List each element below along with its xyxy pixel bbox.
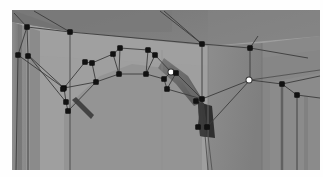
vertex-handle[interactable]: [146, 48, 151, 53]
vertex-handle[interactable]: [200, 97, 205, 102]
vertex-handle[interactable]: [280, 82, 285, 87]
vertex-handle[interactable]: [153, 53, 158, 58]
vertex-handle[interactable]: [68, 30, 73, 35]
vertex-handle[interactable]: [165, 87, 170, 92]
vertex-handle[interactable]: [26, 54, 31, 59]
selected-vertex-handle[interactable]: [247, 78, 252, 83]
vertex-handle[interactable]: [83, 60, 88, 65]
vertex-handle[interactable]: [61, 87, 66, 92]
3d-viewport[interactable]: [12, 10, 320, 170]
vertex-handle[interactable]: [194, 99, 199, 104]
screenshot-root: [0, 0, 323, 177]
vertex-handle[interactable]: [16, 53, 21, 58]
vertex-handle[interactable]: [248, 46, 253, 51]
vertex-handle[interactable]: [200, 42, 205, 47]
vertex-handle[interactable]: [111, 52, 116, 57]
vertex-handle[interactable]: [205, 125, 210, 130]
vertex-handle[interactable]: [66, 109, 71, 114]
vertex-handle[interactable]: [94, 80, 99, 85]
vertex-handle[interactable]: [64, 100, 69, 105]
vertex-handle[interactable]: [25, 25, 30, 30]
vertex-handle[interactable]: [90, 61, 95, 66]
vertex-handle[interactable]: [118, 46, 123, 51]
vertex-handle[interactable]: [117, 72, 122, 77]
vertex-handle[interactable]: [295, 93, 300, 98]
vertex-handle[interactable]: [174, 71, 179, 76]
vertex-handle[interactable]: [162, 77, 167, 82]
vertex-handle[interactable]: [144, 72, 149, 77]
vertex-layer[interactable]: [12, 10, 320, 170]
vertex-handle[interactable]: [196, 125, 201, 130]
